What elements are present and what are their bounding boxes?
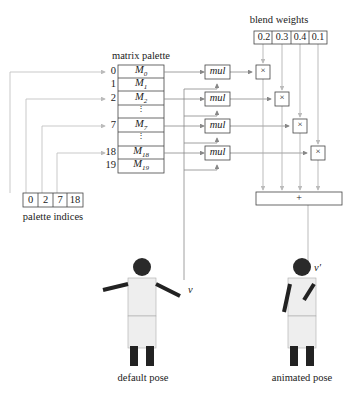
- times-icon: ×: [293, 119, 307, 129]
- row-index: 19: [100, 159, 116, 170]
- skinning-diagram: blend weights 0.2 0.3 0.4 0.1 matrix pal…: [0, 0, 346, 400]
- weight-value: 0.3: [273, 31, 291, 42]
- animated-pose-figure: [284, 258, 316, 366]
- mul-label: mul: [205, 92, 230, 103]
- row-index: 18: [100, 146, 116, 157]
- matrix-cell: M1: [118, 77, 164, 91]
- times-icon: ×: [256, 65, 270, 75]
- times-icon: ×: [275, 92, 289, 102]
- palette-indices-label: palette indices: [23, 211, 83, 222]
- weight-value: 0.2: [256, 31, 272, 42]
- ellipsis: ⋮: [118, 131, 164, 140]
- matrix-palette-label: matrix palette: [112, 50, 170, 61]
- times-boxes: [256, 65, 342, 205]
- ellipsis: ⋮: [118, 104, 164, 113]
- index-value: 2: [38, 194, 53, 205]
- times-icon: ×: [311, 146, 325, 156]
- index-value: 0: [23, 194, 38, 205]
- blend-weights-label: blend weights: [250, 14, 309, 25]
- row-index: 0: [100, 65, 116, 76]
- vertex-v-label: v: [188, 284, 193, 295]
- index-lines: [10, 72, 105, 193]
- default-pose-label: default pose: [117, 372, 168, 383]
- plus-icon: +: [256, 192, 342, 203]
- mul-label: mul: [205, 65, 230, 76]
- weight-lines: [263, 44, 318, 268]
- mul-label: mul: [205, 119, 230, 130]
- vertex-v-prime-label: v′: [314, 262, 321, 273]
- weight-value: 0.4: [291, 31, 309, 42]
- index-value: 18: [67, 194, 83, 205]
- weight-value: 0.1: [309, 31, 327, 42]
- mul-label: mul: [205, 146, 230, 157]
- default-pose-figure: [103, 258, 180, 366]
- matrix-cell: M7: [118, 118, 164, 132]
- animated-pose-label: animated pose: [272, 372, 332, 383]
- row-index: 2: [100, 92, 116, 103]
- matrix-cell: M19: [118, 158, 164, 172]
- matrix-cell: M18: [118, 145, 164, 159]
- row-index: 1: [100, 78, 116, 89]
- row-index: 7: [100, 119, 116, 130]
- matrix-cell: M2: [118, 91, 164, 105]
- index-value: 7: [53, 194, 67, 205]
- matrix-cell: M0: [118, 64, 164, 78]
